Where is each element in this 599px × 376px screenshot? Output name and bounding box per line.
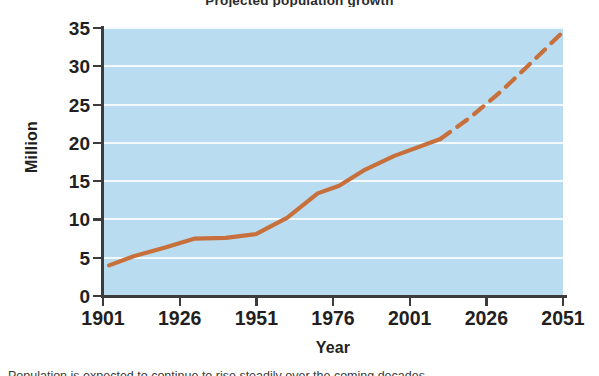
y-axis-tick [93, 27, 102, 29]
figure-caption-text: Population is expected to continue to ri… [0, 369, 428, 376]
y-axis-title: Million [23, 92, 41, 202]
y-axis-tick-label: 15 [50, 172, 90, 191]
x-axis-tick [409, 296, 411, 306]
x-axis-tick [255, 296, 257, 306]
y-axis-tick-label: 10 [50, 210, 90, 229]
y-axis-tick-label: 25 [50, 96, 90, 115]
gridline [103, 142, 563, 144]
gridline [103, 218, 563, 220]
x-axis-tick-label: 2051 [518, 309, 599, 329]
y-axis-tick [93, 257, 102, 259]
x-axis-tick [332, 296, 334, 306]
y-axis-tick-label: 5 [50, 249, 90, 268]
x-axis-title: Year [103, 339, 563, 357]
figure-caption-fragment: Population is expected to continue to ri… [0, 366, 599, 376]
y-axis-tick-label: 20 [50, 134, 90, 153]
gridline [103, 65, 563, 67]
x-axis-tick [485, 296, 487, 306]
y-axis-tick [93, 142, 102, 144]
x-axis-tick [102, 296, 104, 306]
y-axis-tick [93, 295, 102, 297]
x-axis-tick [562, 296, 564, 306]
gridline [103, 180, 563, 182]
gridline [103, 257, 563, 259]
y-axis-tick [93, 180, 102, 182]
x-axis-tick [179, 296, 181, 306]
gridline [103, 104, 563, 106]
y-axis-tick [93, 65, 102, 67]
y-axis-tick-label: 0 [50, 287, 90, 306]
gridline [103, 27, 563, 29]
y-axis-tick-label: 35 [50, 19, 90, 38]
y-axis-tick [93, 104, 102, 106]
y-axis-tick [93, 218, 102, 220]
y-axis-tick-label: 30 [50, 57, 90, 76]
